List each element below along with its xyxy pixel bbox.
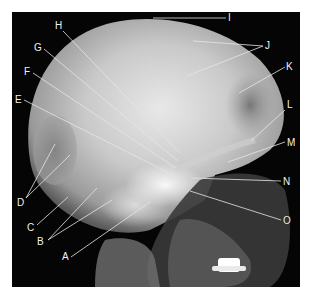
leader-line-k bbox=[239, 67, 285, 93]
label-n: N bbox=[283, 177, 290, 187]
leader-line-n bbox=[191, 178, 281, 181]
leader-line-f bbox=[33, 73, 176, 168]
label-o: O bbox=[283, 216, 291, 226]
leader-line-h bbox=[63, 31, 180, 153]
label-b: B bbox=[37, 237, 44, 247]
leader-line-j2 bbox=[187, 46, 263, 76]
label-c: C bbox=[27, 223, 34, 233]
label-d: D bbox=[17, 198, 24, 208]
leader-line-d2 bbox=[26, 155, 70, 198]
label-k: K bbox=[286, 62, 293, 72]
label-e: E bbox=[15, 95, 22, 105]
leader-line-d1 bbox=[26, 144, 55, 198]
label-f: F bbox=[24, 67, 30, 77]
label-g: G bbox=[34, 43, 42, 53]
label-j: J bbox=[265, 41, 270, 51]
leader-line-o bbox=[190, 191, 281, 220]
leader-line-c bbox=[37, 197, 68, 225]
leader-line-e bbox=[24, 100, 173, 175]
label-h: H bbox=[55, 21, 62, 31]
leader-line-m bbox=[228, 142, 285, 162]
leader-line-l bbox=[251, 110, 285, 141]
leader-line-j1 bbox=[193, 41, 263, 46]
label-i: I bbox=[228, 13, 231, 23]
leader-lines bbox=[0, 0, 309, 294]
label-l: L bbox=[287, 100, 293, 110]
leader-line-a bbox=[71, 202, 150, 257]
label-a: A bbox=[62, 252, 69, 262]
label-m: M bbox=[287, 138, 295, 148]
